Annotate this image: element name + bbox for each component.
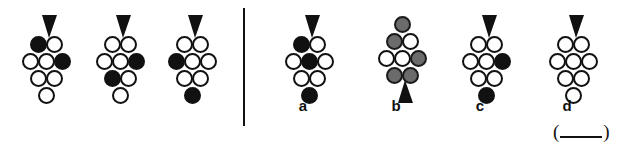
bead-white [192,70,209,87]
bead-white [573,36,590,53]
bead-white [565,53,582,70]
bead-white [30,70,47,87]
bead-white [38,53,55,70]
bead-filled [168,53,185,70]
option-d-label: d [547,97,587,114]
bead-white [470,70,487,87]
bead-white [46,70,63,87]
bead-row [371,16,433,33]
bead-row [455,53,517,70]
bead-white [285,53,302,70]
bead-row [455,36,517,53]
bead-row [455,70,517,87]
bead-white [176,36,193,53]
diagram-canvas: a b c d () [0,0,629,151]
bead-white [557,70,574,87]
bead-white [96,53,113,70]
bead-gray [386,33,403,50]
bead-row [161,87,223,104]
bead-row [15,70,77,87]
bead-filled [30,36,47,53]
bead-white [192,36,209,53]
bead-white [104,36,121,53]
bead-row [15,53,77,70]
bead-row [89,53,151,70]
bead-white [470,36,487,53]
bead-gray [410,50,427,67]
bead-white [200,53,217,70]
bead-white [317,53,334,70]
bead-white [120,36,137,53]
bead-filled [301,53,318,70]
bead-row [89,87,151,104]
option-c-label: c [460,97,500,114]
bead-white [486,36,503,53]
vertical-divider [243,8,245,126]
stem-figure-1 [15,36,77,116]
stem-figure-2 [89,36,151,116]
bead-row [15,36,77,53]
bead-white [293,70,310,87]
bead-white [184,53,201,70]
answer-close-paren: ) [603,121,609,142]
bead-white [120,70,137,87]
bead-row [89,70,151,87]
option-a-label: a [283,97,323,114]
bead-white [573,70,590,87]
bead-white [557,36,574,53]
bead-white [478,53,495,70]
bead-white [309,36,326,53]
answer-blank[interactable]: () [553,121,610,143]
bead-white [112,87,129,104]
bead-white [112,53,129,70]
bead-row [542,36,604,53]
bead-white [549,53,566,70]
answer-blank-line[interactable] [560,124,602,138]
bead-row [542,70,604,87]
bead-white [46,36,63,53]
bead-white [462,53,479,70]
bead-row [278,70,340,87]
bead-row [89,36,151,53]
bead-white [486,70,503,87]
bead-white [22,53,39,70]
answer-open-paren: ( [553,121,559,142]
bead-row [371,50,433,67]
bead-filled [104,70,121,87]
bead-white [176,70,193,87]
bead-row [15,87,77,104]
stem-figure-3 [161,36,223,116]
bead-white [378,50,395,67]
bead-white [309,70,326,87]
bead-filled [494,53,511,70]
bead-white [402,33,419,50]
bead-row [371,33,433,50]
bead-row [278,36,340,53]
bead-gray [394,16,411,33]
bead-row [542,53,604,70]
bead-row [278,53,340,70]
bead-row [161,53,223,70]
bead-filled [293,36,310,53]
bead-filled [184,87,201,104]
bead-filled [128,53,145,70]
bead-white [394,50,411,67]
bead-filled [54,53,71,70]
bead-white [38,87,55,104]
option-b-label: b [376,97,416,114]
bead-row [161,36,223,53]
bead-row [161,70,223,87]
bead-white [581,53,598,70]
